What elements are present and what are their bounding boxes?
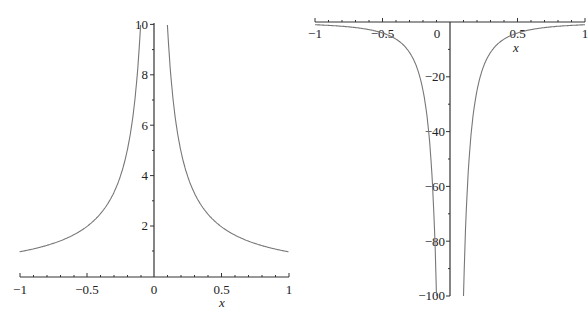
left-x-tick-label: −1: [13, 282, 27, 297]
right-x-tick-label: −1: [308, 26, 322, 41]
left-y-tick-label: 6: [142, 118, 149, 133]
left-chart: −1 −0.5 0 0.5 1 x 2 4 6 8 10: [13, 17, 292, 310]
left-y-tick-label: 8: [142, 67, 149, 82]
right-x-axis-label: x: [512, 40, 519, 55]
left-x-axis-label: x: [218, 295, 225, 310]
right-x-tick-label: 0: [434, 26, 441, 41]
right-curve-negative-branch: [315, 25, 437, 296]
right-y-tick-label: −60: [425, 179, 445, 194]
right-y-tick-label: −100: [418, 288, 445, 303]
figure: −1 −0.5 0 0.5 1 x 2 4 6 8 10: [0, 0, 588, 317]
left-y-tick-label: 2: [142, 218, 149, 233]
left-x-tick-label: 1: [286, 282, 293, 297]
left-x-tick-label: −0.5: [75, 282, 99, 297]
left-x-tick-label: 0: [151, 282, 158, 297]
right-x-tick-label: 1: [582, 26, 588, 41]
left-y-tick-label: 10: [135, 17, 148, 32]
left-curve-positive-branch: [167, 25, 288, 252]
right-y-tick-label: −20: [425, 69, 445, 84]
left-y-tick-label: 4: [142, 168, 149, 183]
left-curve-negative-branch: [20, 25, 141, 252]
right-chart: −1 −0.5 0 0.5 1 x −20 −40 −60 −80 −100: [308, 18, 588, 303]
right-curve-positive-branch: [464, 25, 586, 296]
